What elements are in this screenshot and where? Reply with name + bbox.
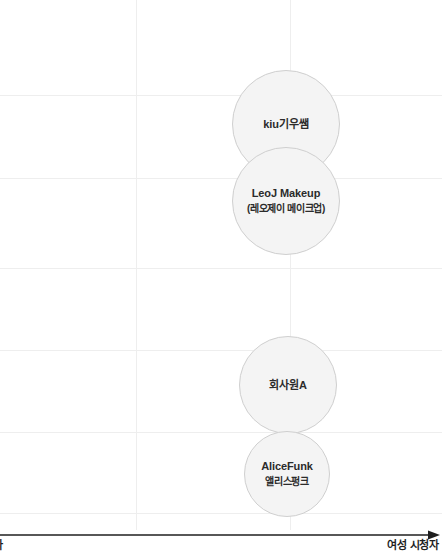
bubble-label-main: kiu기우쌤	[263, 117, 308, 132]
bubble-4[interactable]: AliceFunk앨리스펑크	[244, 431, 330, 517]
bubble-label-main: 회사원A	[269, 378, 307, 393]
gridline-horizontal-0	[0, 95, 442, 96]
bubble-3[interactable]: 회사원A	[239, 336, 337, 434]
gridline-horizontal-5	[0, 513, 442, 514]
bubble-chart-canvas: kiu기우쌤LeoJ Makeup(레오제이 메이크업)회사원AAliceFun…	[0, 0, 442, 553]
gridline-horizontal-1	[0, 178, 442, 179]
gridline-horizontal-3	[0, 350, 442, 351]
gridline-horizontal-4	[0, 432, 442, 433]
x-axis-left-label-clipped: 자	[0, 536, 3, 552]
bubble-label-sub: (레오제이 메이크업)	[247, 202, 325, 216]
bubble-label-main: AliceFunk	[261, 459, 313, 474]
gridline-vertical-0	[136, 0, 137, 530]
bubble-label-sub: 앨리스펑크	[265, 475, 309, 489]
gridline-horizontal-2	[0, 268, 442, 269]
bubble-label-main: LeoJ Makeup	[252, 186, 321, 201]
bubble-2[interactable]: LeoJ Makeup(레오제이 메이크업)	[232, 147, 340, 255]
x-axis-arrow	[0, 529, 442, 541]
x-axis-right-label: 여성 시청자	[387, 536, 439, 552]
